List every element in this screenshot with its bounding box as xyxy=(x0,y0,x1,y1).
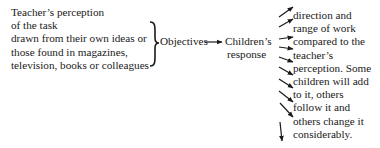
arrow-right-icon xyxy=(279,37,293,39)
response-line: considerably. xyxy=(293,128,371,141)
response-line: perception. Some xyxy=(293,62,371,75)
fan-arrows xyxy=(279,7,293,141)
arrow-up-right-icon xyxy=(279,19,293,27)
arrow-down-icon xyxy=(280,122,282,141)
arrow-down-right-icon xyxy=(279,67,293,75)
children-line: response xyxy=(225,48,272,61)
response-line: others change it xyxy=(293,115,371,128)
childrens-response-label: Children’s response xyxy=(225,35,272,61)
arrow-down-right-icon xyxy=(279,57,293,62)
response-line: compared to the xyxy=(293,35,371,48)
response-line: direction and xyxy=(293,9,371,22)
response-line: children will add xyxy=(293,75,371,88)
arrow-down-right-icon xyxy=(279,79,293,88)
response-description-text: direction and range of work compared to … xyxy=(293,9,371,141)
response-line: to it, others xyxy=(293,88,371,101)
arrow-down-right-icon xyxy=(279,91,293,102)
response-line: range of work xyxy=(293,22,371,35)
right-brace-icon xyxy=(150,22,159,66)
response-line: teacher’s xyxy=(293,49,371,62)
arrow-right-icon xyxy=(279,47,293,49)
objectives-label: Objectives xyxy=(160,35,208,48)
arrow-up-right-icon xyxy=(279,7,293,17)
response-line: follow it and xyxy=(293,101,371,114)
children-line: Children’s xyxy=(225,35,272,48)
arrow-down-right-icon xyxy=(280,103,293,117)
